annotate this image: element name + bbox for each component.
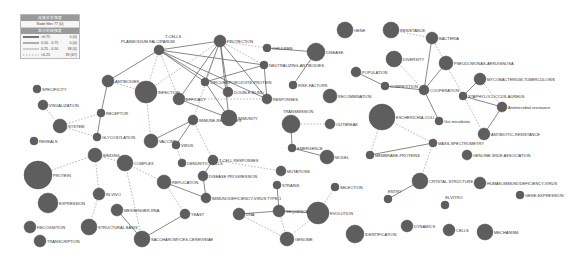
network-node-in-vitro[interactable]: IN-VITRO xyxy=(441,195,463,209)
node-circle[interactable] xyxy=(201,78,209,86)
node-circle[interactable] xyxy=(180,209,190,219)
node-circle[interactable] xyxy=(97,109,105,117)
network-node-hiv1[interactable]: IMMUNODEFICIENCY-VIRUS TYPE-1 xyxy=(201,193,282,203)
node-circle[interactable] xyxy=(337,22,353,38)
node-circle[interactable] xyxy=(233,208,245,220)
node-circle[interactable] xyxy=(208,155,218,165)
node-circle[interactable] xyxy=(93,188,105,200)
network-node-mass-spec[interactable]: MASS-SPECTROMETRY xyxy=(429,139,484,147)
network-node-visualization[interactable]: VISUALIZATION xyxy=(38,100,79,110)
node-circle[interactable] xyxy=(30,137,38,145)
network-node-mutations[interactable]: MUTATIONS xyxy=(276,166,310,176)
network-node-gene[interactable]: GENE xyxy=(337,22,366,38)
node-circle[interactable] xyxy=(384,195,392,203)
network-node-model[interactable]: MODEL xyxy=(320,150,350,164)
network-node-recognition[interactable]: RECOGNITION xyxy=(24,221,65,233)
network-node-mechanism[interactable]: MECHANISM xyxy=(477,224,518,240)
node-circle[interactable] xyxy=(419,85,429,95)
network-node-evolution[interactable]: EVOLUTION xyxy=(307,202,353,224)
node-circle[interactable] xyxy=(53,119,67,133)
network-node-crystal-structure[interactable]: CRYSTAL-STRUCTURE xyxy=(412,173,473,189)
node-circle[interactable] xyxy=(497,102,507,112)
node-circle[interactable] xyxy=(188,115,198,125)
node-circle[interactable] xyxy=(221,110,237,126)
network-node-yeast[interactable]: YEAST xyxy=(180,209,205,219)
node-circle[interactable] xyxy=(173,93,185,105)
node-circle[interactable] xyxy=(34,235,46,247)
network-node-receptor[interactable]: RECEPTOR xyxy=(97,109,128,117)
node-circle[interactable] xyxy=(38,193,58,213)
node-circle[interactable] xyxy=(214,35,226,47)
network-node-resistance[interactable]: RESISTANCE xyxy=(383,22,426,38)
network-node-recombination[interactable]: RECOMBINATION xyxy=(323,89,372,103)
network-node-bacteria[interactable]: BACTERIA xyxy=(426,32,459,44)
node-circle[interactable] xyxy=(273,205,285,217)
node-circle[interactable] xyxy=(366,151,374,159)
network-node-hiv[interactable]: HUMAN-IMMUNODEFICIENCY-VIRUS xyxy=(474,177,557,189)
node-circle[interactable] xyxy=(33,85,41,93)
node-circle[interactable] xyxy=(459,92,467,100)
network-node-immunity[interactable]: IMMUNITY xyxy=(221,110,258,126)
node-circle[interactable] xyxy=(401,220,413,232)
network-node-population[interactable]: POPULATION xyxy=(351,67,388,77)
network-node-disease[interactable]: DISEASE xyxy=(307,43,344,61)
network-node-protection[interactable]: PROTECTION xyxy=(214,35,253,47)
network-node-outbreak[interactable]: OUTBREAK xyxy=(325,119,358,129)
node-circle[interactable] xyxy=(441,201,449,209)
network-node-sequence[interactable]: SEQUENCE xyxy=(273,205,309,217)
network-node-responses[interactable]: RESPONSES xyxy=(262,94,298,104)
node-circle[interactable] xyxy=(262,94,272,104)
network-node-dna[interactable]: DNA xyxy=(233,208,255,220)
node-circle[interactable] xyxy=(478,128,490,140)
node-circle[interactable] xyxy=(135,81,157,103)
network-node-pseudomonas[interactable]: PSEUDOMONAS-AERUGINOSA xyxy=(439,56,514,70)
node-circle[interactable] xyxy=(88,148,102,162)
node-circle[interactable] xyxy=(172,141,180,149)
node-circle[interactable] xyxy=(325,119,335,129)
node-circle[interactable] xyxy=(307,43,325,61)
network-node-dynamics[interactable]: DYNAMICS xyxy=(401,220,435,232)
network-node-mycobacterium[interactable]: MYCOBACTERIUM-TUBERCULOSIS xyxy=(474,73,555,85)
node-circle[interactable] xyxy=(474,73,486,85)
network-node-membrane-proteins[interactable]: MEMBRANE-PROTEINS xyxy=(366,151,420,159)
network-node-gwas[interactable]: GENOME-WIDE ASSOCIATION xyxy=(462,150,531,160)
node-circle[interactable] xyxy=(386,51,402,67)
node-circle[interactable] xyxy=(351,67,361,77)
node-circle[interactable] xyxy=(323,89,337,103)
network-node-messenger-rna[interactable]: MESSENGER-RNA xyxy=(111,204,160,216)
network-node-saccharomyces[interactable]: SACCHAROMYCES-CEREVISIAE xyxy=(134,231,214,247)
node-circle[interactable] xyxy=(263,44,271,52)
network-node-risk-factors[interactable]: RISK-FACTORS xyxy=(289,81,328,89)
node-circle[interactable] xyxy=(24,221,36,233)
node-circle[interactable] xyxy=(81,219,97,235)
network-node-antibiotic[interactable]: ANTIBIOTIC-RESISTANCE xyxy=(478,128,540,140)
network-node-genome[interactable]: GENOME xyxy=(280,232,313,246)
node-circle[interactable] xyxy=(280,232,294,246)
node-circle[interactable] xyxy=(443,224,455,236)
network-node-staphylococcus[interactable]: STAPHYLOCOCCUS-AUREUS xyxy=(459,92,525,100)
network-node-transcription[interactable]: TRANSCRIPTION xyxy=(34,235,80,247)
network-node-binding[interactable]: BINDING xyxy=(88,148,120,162)
network-node-neutralizing[interactable]: NEUTRALIZING-ANTIBODIES xyxy=(260,61,324,69)
network-node-escherichia[interactable]: ESCHERICHIA-COLI xyxy=(369,104,434,130)
node-circle[interactable] xyxy=(369,104,395,130)
network-node-reveals[interactable]: REVEALS xyxy=(30,137,58,145)
node-circle[interactable] xyxy=(38,100,48,110)
node-circle[interactable] xyxy=(412,173,428,189)
network-node-plasmodium[interactable]: PLASMODIUM-FALCIPARUM xyxy=(121,39,175,44)
node-circle[interactable] xyxy=(320,150,334,164)
network-node-selection[interactable]: SELECTION xyxy=(331,183,363,191)
node-circle[interactable] xyxy=(381,82,389,90)
node-circle[interactable] xyxy=(439,56,453,70)
node-circle[interactable] xyxy=(282,115,300,133)
node-circle[interactable] xyxy=(426,32,438,44)
node-circle[interactable] xyxy=(276,166,286,176)
network-node-identification[interactable]: IDENTIFICATION xyxy=(346,225,397,243)
node-circle[interactable] xyxy=(144,134,158,148)
node-circle[interactable] xyxy=(154,45,164,55)
network-node-complex[interactable]: COMPLEX xyxy=(117,155,154,171)
network-node-glycosylation[interactable]: GLYCOSYLATION xyxy=(93,133,135,141)
network-node-specificity[interactable]: SPECIFICITY xyxy=(33,85,67,93)
node-circle[interactable] xyxy=(117,155,133,171)
node-circle[interactable] xyxy=(477,224,493,240)
